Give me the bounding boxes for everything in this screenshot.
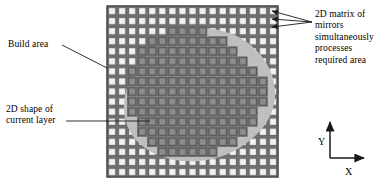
axis-label-x: X <box>345 166 352 177</box>
axis-label-y: Y <box>318 136 325 147</box>
axis-widget <box>330 122 364 158</box>
label-2d-shape-of-current-layer: 2D shape of current layer <box>6 104 76 127</box>
figure-canvas: Build area 2D shape of current layer 2D … <box>0 0 388 186</box>
label-build-area: Build area <box>8 39 70 50</box>
label-2d-matrix-of-mirrors: 2D matrix of mirrors simultaneously proc… <box>315 9 387 66</box>
